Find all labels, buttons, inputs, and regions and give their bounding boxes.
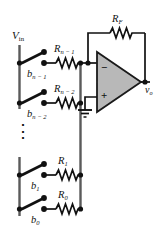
label-resistor-bit1: R1 <box>58 156 68 167</box>
switch-blade-msb-1[interactable] <box>22 92 44 103</box>
node-dot-bit1 <box>78 172 83 177</box>
opamp-noninverting-input-label: + <box>101 90 107 101</box>
opamp-inverting-input-label: − <box>101 62 107 73</box>
label-resistor-msb-1-sub: n − 2 <box>60 88 74 95</box>
resistor-msb-1 <box>56 98 81 108</box>
switch-contact-open-msb-1[interactable] <box>41 89 47 95</box>
circuit-diagram: Vin RF Rn − 1 bn − 1 Rn − 2 bn − 2 R1 b1… <box>0 0 158 226</box>
label-resistor-bit1-sub: 1 <box>64 160 67 167</box>
bit-row-lsb <box>17 195 83 214</box>
label-switch-lsb: b0 <box>31 215 40 226</box>
switch-blade-lsb[interactable] <box>22 198 44 209</box>
label-input-voltage-sub: in <box>19 35 24 42</box>
node-dot-lsb <box>78 206 83 211</box>
label-resistor-msb: Rn − 1 <box>54 44 75 55</box>
switch-contact-open-msb[interactable] <box>41 49 47 55</box>
node-dot-msb-1 <box>78 100 83 105</box>
label-resistor-msb-sub: n − 1 <box>60 48 74 55</box>
label-output-voltage: vo <box>145 85 153 96</box>
label-feedback-resistor: RF <box>112 14 122 25</box>
label-switch-msb: bn − 1 <box>27 69 46 80</box>
label-output-voltage-sub: o <box>149 89 152 96</box>
bit-row-bit1 <box>17 161 83 180</box>
label-switch-msb-1: bn − 2 <box>27 109 46 120</box>
switch-blade-bit1[interactable] <box>22 164 44 175</box>
label-input-voltage-base: V <box>12 29 19 41</box>
label-resistor-lsb-sub: 0 <box>64 194 67 201</box>
label-input-voltage: Vin <box>12 30 24 43</box>
label-switch-bit1-sub: 1 <box>36 185 39 192</box>
switch-blade-msb[interactable] <box>22 52 44 63</box>
label-resistor-msb-1: Rn − 2 <box>54 84 75 95</box>
resistor-feedback <box>110 28 145 38</box>
label-switch-msb-sub: n − 1 <box>32 73 46 80</box>
label-switch-bit1: b1 <box>31 181 40 192</box>
resistor-lsb <box>56 204 81 214</box>
resistor-bit1 <box>56 170 81 180</box>
label-feedback-resistor-sub: F <box>118 18 122 25</box>
resistor-msb <box>56 58 81 68</box>
label-switch-msb-1-sub: n − 2 <box>32 113 46 120</box>
label-resistor-lsb: R0 <box>58 190 68 201</box>
vertical-ellipsis: ⋮ <box>14 122 32 140</box>
label-switch-lsb-sub: 0 <box>36 219 39 226</box>
switch-contact-open-bit1[interactable] <box>41 161 47 167</box>
switch-contact-open-lsb[interactable] <box>41 195 47 201</box>
